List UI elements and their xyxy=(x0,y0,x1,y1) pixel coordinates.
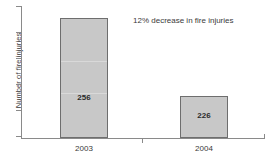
x-axis-endcap xyxy=(264,134,265,139)
chart-annotation: 12% decrease in fire injuries xyxy=(133,16,234,25)
y-axis-tick xyxy=(16,6,22,7)
x-axis-line xyxy=(21,138,265,139)
y-axis-tick xyxy=(16,32,22,33)
x-axis-tick xyxy=(142,138,143,143)
bar-value-label: 256 xyxy=(61,93,107,102)
x-axis-label-2003: 2003 xyxy=(54,144,114,153)
bar-2003: 256 xyxy=(60,18,108,138)
y-axis-tick xyxy=(16,84,22,85)
bar-2004: 226 xyxy=(180,96,228,138)
x-axis-endcap xyxy=(21,134,22,139)
x-axis-label-2004: 2004 xyxy=(174,144,234,153)
y-axis-line xyxy=(21,6,22,139)
bar-gridline xyxy=(61,61,107,62)
bar-chart: Number of fire injuries 256226 20032004 … xyxy=(0,0,275,160)
y-axis-tick xyxy=(16,58,22,59)
bar-value-label: 226 xyxy=(181,111,227,120)
y-axis-tick xyxy=(16,110,22,111)
